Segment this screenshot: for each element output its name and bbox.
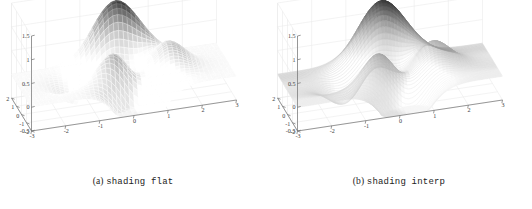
svg-text:0.5: 0.5: [22, 81, 30, 87]
svg-text:0: 0: [26, 104, 29, 110]
caption-code-b: shading interp: [367, 177, 445, 187]
caption-code-a: shading flat: [106, 177, 173, 187]
svg-text:0: 0: [282, 113, 285, 119]
svg-text:3: 3: [502, 102, 505, 108]
surface-svg-flat: -0.500.511.5-2-1012-3-2-10123: [0, 0, 266, 175]
svg-text:0: 0: [133, 118, 136, 124]
svg-text:-2: -2: [330, 128, 335, 134]
svg-text:2: 2: [6, 96, 9, 102]
figure-shading-comparison: -0.500.511.5-2-1012-3-2-10123 (a) shadin…: [0, 0, 532, 209]
svg-text:0: 0: [399, 118, 402, 124]
svg-text:2: 2: [201, 107, 204, 113]
caption-panel-b: (b) shading interp: [266, 176, 532, 187]
surface-svg-interp: -0.500.511.5-2-1012-3-2-10123: [266, 0, 532, 175]
surface-plot-interp: -0.500.511.5-2-1012-3-2-10123: [266, 0, 532, 175]
svg-text:0: 0: [16, 113, 19, 119]
svg-text:1: 1: [11, 104, 14, 110]
svg-text:1: 1: [26, 57, 29, 63]
svg-text:1: 1: [433, 113, 436, 119]
surface-plot-flat: -0.500.511.5-2-1012-3-2-10123: [0, 0, 266, 175]
svg-text:-2: -2: [64, 128, 69, 134]
svg-text:1.5: 1.5: [22, 33, 30, 39]
svg-text:1: 1: [292, 57, 295, 63]
svg-text:-3: -3: [296, 133, 301, 139]
svg-text:-3: -3: [30, 133, 35, 139]
svg-text:1: 1: [277, 104, 280, 110]
panel-shading-flat: -0.500.511.5-2-1012-3-2-10123 (a) shadin…: [0, 0, 266, 209]
svg-text:-1: -1: [285, 121, 290, 127]
caption-label-b: (b): [353, 176, 365, 186]
svg-text:0: 0: [292, 104, 295, 110]
svg-text:1: 1: [167, 113, 170, 119]
caption-panel-a: (a) shading flat: [0, 176, 266, 187]
svg-text:2: 2: [272, 96, 275, 102]
svg-text:-2: -2: [24, 129, 29, 135]
panel-shading-interp: -0.500.511.5-2-1012-3-2-10123 (b) shadin…: [266, 0, 532, 209]
svg-text:2: 2: [467, 107, 470, 113]
svg-text:-2: -2: [290, 129, 295, 135]
svg-text:-1: -1: [98, 123, 103, 129]
svg-text:0.5: 0.5: [288, 81, 296, 87]
svg-text:-1: -1: [19, 121, 24, 127]
caption-label-a: (a): [93, 176, 104, 186]
svg-text:-1: -1: [364, 123, 369, 129]
svg-text:1.5: 1.5: [288, 33, 296, 39]
svg-text:3: 3: [236, 102, 239, 108]
